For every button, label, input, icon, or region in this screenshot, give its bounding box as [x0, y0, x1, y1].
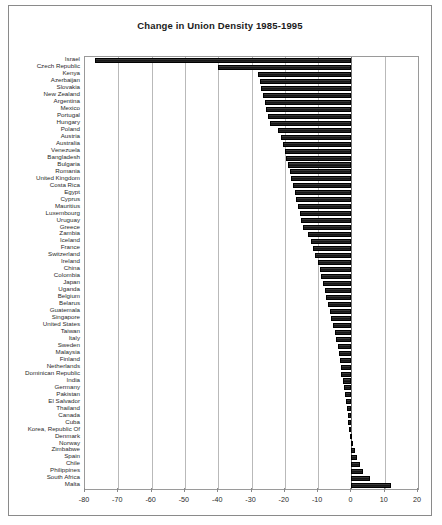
bar-row — [85, 253, 418, 258]
bar — [351, 448, 354, 453]
bar-row — [85, 295, 418, 300]
bar-row — [85, 246, 418, 251]
bar — [218, 65, 351, 70]
x-tick-mark — [284, 488, 285, 492]
x-tick-label: -10 — [312, 495, 322, 504]
x-tick-label: 0 — [348, 495, 352, 504]
bar — [345, 392, 352, 397]
bar-row — [85, 406, 418, 411]
bar-row — [85, 162, 418, 167]
bar — [333, 323, 351, 328]
bar — [335, 330, 352, 335]
bar-row — [85, 232, 418, 237]
bar — [330, 309, 352, 314]
bar — [313, 246, 351, 251]
bar-row — [85, 274, 418, 279]
bar-row — [85, 330, 418, 335]
bar-row — [85, 441, 418, 446]
x-tick-mark — [84, 488, 85, 492]
y-axis-category-labels: IsraelCzech RepublicKenyaAzerbaijanSlova… — [9, 56, 82, 490]
bar-row — [85, 302, 418, 307]
bar — [328, 302, 351, 307]
bar-row — [85, 455, 418, 460]
bar-row — [85, 86, 418, 91]
x-tick-mark — [251, 488, 252, 492]
bar-row — [85, 260, 418, 265]
x-tick-mark — [350, 488, 351, 492]
bar-row — [85, 239, 418, 244]
x-tick-label: -30 — [245, 495, 255, 504]
bar-row — [85, 176, 418, 181]
bar-row — [85, 483, 418, 488]
category-label: Canada — [58, 412, 80, 418]
bar — [344, 385, 352, 390]
bar-row — [85, 211, 418, 216]
category-label: El Salvador — [48, 398, 80, 404]
bar — [341, 372, 351, 377]
bar-row — [85, 169, 418, 174]
bar-row — [85, 434, 418, 439]
bar — [349, 427, 351, 432]
bar-row — [85, 58, 418, 63]
bar — [268, 114, 351, 119]
bar — [325, 288, 352, 293]
bar-row — [85, 225, 418, 230]
bar-row — [85, 462, 418, 467]
x-tick-mark — [151, 488, 152, 492]
bar — [263, 93, 351, 98]
bar — [326, 295, 351, 300]
category-label: Cuba — [65, 419, 80, 425]
bar-row — [85, 114, 418, 119]
bar-row — [85, 344, 418, 349]
x-tick-label: -80 — [79, 495, 89, 504]
bar — [346, 399, 352, 404]
bar-row — [85, 420, 418, 425]
bar — [336, 337, 351, 342]
bar-series — [85, 57, 418, 489]
bar-row — [85, 197, 418, 202]
category-label: Uruguay — [57, 217, 80, 223]
category-label: Malta — [65, 481, 80, 487]
bar-row — [85, 351, 418, 356]
category-label: Korea, Republic Of — [28, 426, 80, 432]
bar-row — [85, 448, 418, 453]
bar-row — [85, 323, 418, 328]
x-tick-label: 20 — [413, 495, 421, 504]
x-tick-label: -50 — [179, 495, 189, 504]
bar — [351, 483, 391, 488]
bar — [293, 183, 351, 188]
x-axis-tick-labels: -80-70-60-50-40-30-20-1001020 — [84, 492, 419, 510]
bar — [308, 232, 351, 237]
bar — [260, 79, 352, 84]
bar-row — [85, 427, 418, 432]
bar — [258, 72, 351, 77]
bar-row — [85, 183, 418, 188]
bar-row — [85, 204, 418, 209]
bar — [286, 156, 351, 161]
bar — [338, 344, 351, 349]
bar — [343, 378, 352, 383]
bar-row — [85, 218, 418, 223]
x-tick-label: -70 — [112, 495, 122, 504]
bar-row — [85, 469, 418, 474]
bar — [261, 86, 351, 91]
bar-row — [85, 337, 418, 342]
bar — [315, 253, 352, 258]
bar-row — [85, 142, 418, 147]
bar-row — [85, 476, 418, 481]
bar-row — [85, 72, 418, 77]
bar-row — [85, 392, 418, 397]
bar — [290, 169, 352, 174]
category-label: Egypt — [64, 189, 80, 195]
chart-title: Change in Union Density 1985-1995 — [9, 20, 431, 31]
bar-row — [85, 413, 418, 418]
bar — [348, 420, 351, 425]
bar-row — [85, 93, 418, 98]
bar — [350, 434, 352, 439]
bar — [323, 281, 351, 286]
chart-figure: Change in Union Density 1985-1995 Israel… — [8, 5, 432, 516]
x-tick-label: -20 — [279, 495, 289, 504]
x-tick-mark — [184, 488, 185, 492]
bar — [341, 365, 352, 370]
category-label: Luxembourg — [46, 210, 80, 216]
